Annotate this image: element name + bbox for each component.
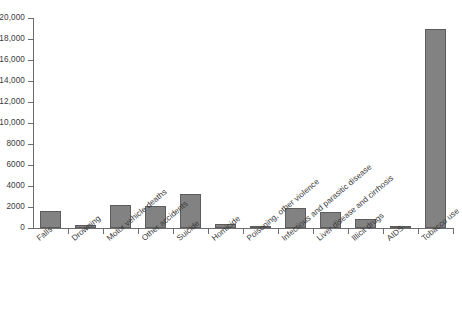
y-axis-tick-label: 12,000 (0, 96, 25, 107)
y-axis-tick-mark (28, 39, 33, 40)
y-axis-tick-mark (28, 60, 33, 61)
x-axis-tick-mark (243, 229, 244, 234)
y-axis-tick-label: 4000 (6, 180, 25, 191)
y-axis-tick-mark (28, 207, 33, 208)
x-axis-tick-mark (418, 229, 419, 234)
y-axis-line (33, 18, 34, 229)
x-axis-tick-mark (173, 229, 174, 234)
x-axis-tick-mark (453, 229, 454, 234)
bar (40, 211, 62, 228)
y-axis-tick-mark (28, 165, 33, 166)
y-axis-tick-mark (28, 228, 33, 229)
x-axis-tick-mark (348, 229, 349, 234)
x-axis-tick-mark (383, 229, 384, 234)
y-axis-tick-label: 16,000 (0, 54, 25, 65)
y-axis-tick-label: 10,000 (0, 117, 25, 128)
x-axis-tick-mark (313, 229, 314, 234)
y-axis-tick-mark (28, 123, 33, 124)
y-axis-tick-mark (28, 186, 33, 187)
y-axis-tick-label: 20,000 (0, 12, 25, 23)
bar (425, 29, 447, 229)
y-axis-tick-label: 6000 (6, 159, 25, 170)
x-axis-tick-mark (103, 229, 104, 234)
y-axis-tick-mark (28, 18, 33, 19)
x-axis-tick-mark (138, 229, 139, 234)
y-axis-tick-mark (28, 81, 33, 82)
x-axis-tick-mark (208, 229, 209, 234)
y-axis-tick-label: 18,000 (0, 33, 25, 44)
y-axis-tick-label: 2000 (6, 201, 25, 212)
y-axis-tick-label: 8000 (6, 138, 25, 149)
y-axis-tick-label: 14,000 (0, 75, 25, 86)
y-axis-tick-mark (28, 144, 33, 145)
x-axis-tick-label: AIDS (385, 224, 406, 244)
x-axis-tick-mark (278, 229, 279, 234)
y-axis-tick-label: 0 (20, 222, 25, 233)
y-axis-tick-mark (28, 102, 33, 103)
x-axis-tick-mark (68, 229, 69, 234)
